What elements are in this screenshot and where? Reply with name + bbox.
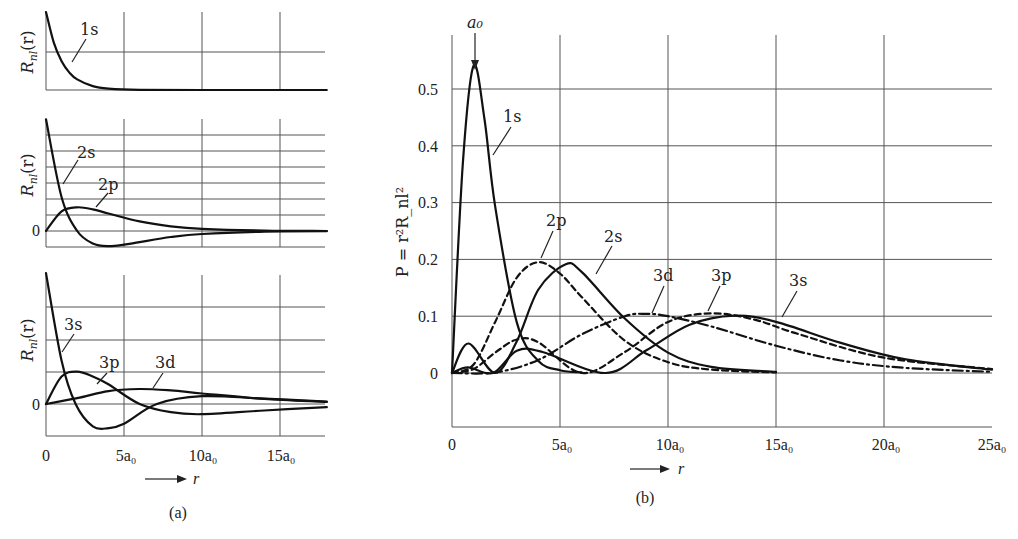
curve-3s [46, 273, 327, 429]
a-xtick-15: 15a₀ [267, 447, 296, 464]
panel-b: 0.5 0.4 0.3 0.2 0.1 0 P = r²R_nl² a₀ 1s … [393, 13, 1006, 507]
panel-a-x-arrow: r [145, 470, 200, 487]
curve-3p [452, 313, 992, 373]
subplot-2-zero-label: 0 [32, 222, 40, 239]
b-ytick-0.5: 0.5 [418, 81, 438, 98]
label-1s-a: 1s [80, 20, 98, 39]
a-xtick-0: 0 [42, 447, 50, 464]
peak-annotation-a0: a₀ [467, 13, 484, 32]
label-2s-b: 2s [604, 227, 622, 246]
panel-b-x-ticks: 0 5a₀ 10a₀ 15a₀ 20a₀ 25a₀ [448, 436, 1006, 453]
panel-b-curves [452, 65, 992, 374]
b-ytick-0.2: 0.2 [418, 251, 438, 268]
svg-text:Rnl(r): Rnl(r) [18, 319, 40, 363]
b-xtick-5: 5a₀ [552, 436, 573, 453]
b-ytick-0.1: 0.1 [418, 308, 438, 325]
b-ytick-0: 0 [430, 365, 438, 382]
label-3s-b: 3s [789, 271, 807, 290]
svg-text:Rnl(r): Rnl(r) [18, 154, 40, 198]
figure-canvas: Rnl(r) Rnl(r) Rnl(r) 0 0 1s 2s 2p 3s 3p … [0, 0, 1018, 539]
panel-a-grid [46, 12, 325, 436]
a-xtick-5: 5a₀ [116, 447, 137, 464]
panel-b-x-arrow: r [630, 460, 685, 477]
curve-3d [452, 314, 992, 374]
leader-1s-b [493, 127, 511, 155]
panel-b-ylabel: P = r²R_nl² [393, 187, 412, 277]
a-xtick-10: 10a₀ [189, 447, 218, 464]
b-xtick-15: 15a₀ [765, 436, 794, 453]
peak-arrow-icon [471, 33, 479, 70]
curve-3p [46, 372, 327, 415]
b-ytick-0.3: 0.3 [418, 194, 438, 211]
label-3s-a: 3s [64, 315, 82, 334]
a-x-label: r [193, 470, 200, 487]
leader-3p-b [708, 286, 720, 311]
leader-2s-b [596, 246, 612, 274]
leader-3d-a [153, 373, 163, 388]
leader-3s-a [62, 334, 74, 352]
svg-text:Rnl(r): Rnl(r) [18, 31, 40, 75]
label-2p-a: 2p [98, 175, 118, 194]
leader-3s-b [782, 291, 797, 317]
subplot-2-ylabel: Rnl(r) [18, 154, 40, 198]
leader-1s-a [72, 39, 86, 62]
b-xtick-0: 0 [448, 436, 456, 453]
curve-3s [452, 316, 992, 374]
leader-2p-b [541, 231, 553, 258]
label-1s-b: 1s [503, 107, 521, 126]
panel-a-x-ticks: 0 5a₀ 10a₀ 15a₀ [42, 447, 295, 464]
label-3d-a: 3d [155, 353, 175, 372]
panel-a: Rnl(r) Rnl(r) Rnl(r) 0 0 1s 2s 2p 3s 3p … [18, 12, 327, 522]
label-3d-b: 3d [653, 266, 673, 285]
b-x-label: r [678, 460, 685, 477]
leader-2p-a [96, 193, 108, 207]
leader-3d-b [652, 286, 664, 313]
subplot-1-ylabel: Rnl(r) [18, 31, 40, 75]
b-xtick-25: 25a₀ [978, 436, 1007, 453]
leader-2s-a [63, 160, 78, 184]
label-3p-b: 3p [711, 266, 731, 285]
b-ytick-0.4: 0.4 [418, 138, 438, 155]
panel-b-y-ticks: 0.5 0.4 0.3 0.2 0.1 0 [418, 81, 438, 382]
label-2p-b: 2p [546, 211, 566, 230]
panel-a-caption: (a) [169, 504, 187, 522]
label-2s-a: 2s [77, 143, 95, 162]
curve-2p [46, 207, 327, 231]
subplot-3-ylabel: Rnl(r) [18, 319, 40, 363]
b-xtick-10: 10a₀ [656, 436, 685, 453]
panel-a-curves [46, 12, 327, 429]
svg-text:P = r²R_nl²: P = r²R_nl² [393, 187, 412, 277]
subplot-3-zero-label: 0 [32, 396, 40, 413]
label-3p-a: 3p [99, 353, 119, 372]
b-xtick-20: 20a₀ [872, 436, 901, 453]
panel-b-caption: (b) [636, 489, 655, 507]
